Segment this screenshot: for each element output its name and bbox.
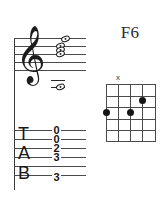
ledger-line <box>51 80 65 81</box>
tab-fret-string-4: 3 <box>52 152 61 163</box>
tab-letter-a: A <box>18 144 30 162</box>
notehead <box>55 50 65 59</box>
notation-tab-system: 𝄞 T A B 0 0 2 3 3 <box>14 38 86 190</box>
diagram-mute-marker-x: x <box>114 74 122 82</box>
treble-clef-icon: 𝄞 <box>16 29 46 79</box>
diagram-string-5 <box>155 84 156 142</box>
tab-letter-b: B <box>18 164 30 182</box>
diagram-fret-line <box>106 130 156 131</box>
diagram-fret-line <box>106 96 156 97</box>
diagram-fret-line <box>106 141 156 142</box>
diagram-dot <box>103 109 110 116</box>
tab-letter-t: T <box>18 125 29 143</box>
diagram-string-2 <box>118 84 119 142</box>
tab-fret-string-6: 3 <box>52 172 61 183</box>
diagram-fret-line <box>106 107 156 108</box>
chord-name: F6 <box>100 24 160 41</box>
diagram-dot <box>139 97 146 104</box>
notehead-stack <box>52 38 78 118</box>
chord-sheet: F6 𝄞 T A B 0 <box>0 0 167 199</box>
diagram-fret-line <box>106 84 156 85</box>
diagram-fret-line <box>106 119 156 120</box>
notehead-bass <box>55 83 65 92</box>
diagram-dot <box>127 109 134 116</box>
chord-diagram: x <box>106 84 156 142</box>
diagram-string-4 <box>142 84 143 142</box>
